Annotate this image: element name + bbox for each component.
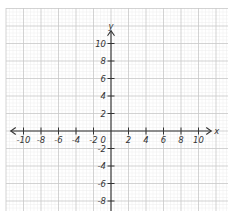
y-tick-label: -2 <box>98 144 106 154</box>
x-tick-label: 10 <box>193 135 204 145</box>
x-tick-label: -10 <box>17 135 31 145</box>
x-tick-label: -2 <box>89 135 97 145</box>
y-tick-label: 8 <box>101 56 107 66</box>
x-tick-label: -6 <box>54 135 63 145</box>
y-tick-label: -8 <box>98 196 107 206</box>
x-tick-label: 8 <box>178 135 184 145</box>
x-tick-label: 2 <box>126 135 131 145</box>
y-tick-label: 6 <box>101 74 107 84</box>
x-tick-label: -4 <box>72 135 80 145</box>
y-axis-label: y <box>107 21 114 31</box>
x-tick-label: 6 <box>161 135 167 145</box>
y-tick-label: 4 <box>101 91 106 101</box>
y-tick-label: 10 <box>95 39 106 49</box>
y-tick-label: 2 <box>101 109 106 119</box>
coordinate-plane: -10-8-6-4-2246810 108642-2-4-6-8 x y 0 <box>0 0 228 211</box>
x-tick-label: 4 <box>143 135 148 145</box>
origin-label: 0 <box>101 135 106 145</box>
y-tick-label: -6 <box>98 179 107 189</box>
x-axis-label: x <box>213 126 220 136</box>
y-tick-label: -4 <box>98 161 106 171</box>
x-tick-label: -8 <box>37 135 46 145</box>
